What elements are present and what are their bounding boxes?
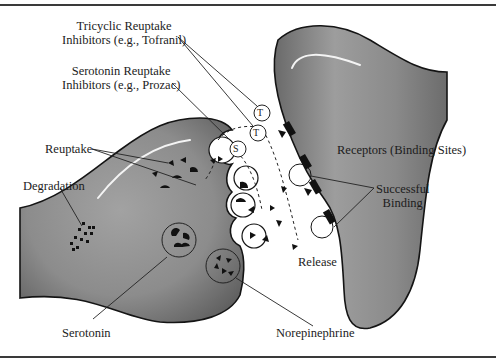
label-norepinephrine: Norepinephrine: [276, 326, 354, 340]
label-receptors: Receptors (Binding Sites): [337, 143, 466, 157]
label-ssri-line1: Serotonin Reuptake: [62, 64, 180, 78]
label-release: Release: [298, 255, 337, 269]
label-binding-line2: Binding: [376, 196, 429, 210]
marker-s-letter: S: [233, 142, 239, 156]
marker-t1-letter: T: [257, 106, 263, 120]
label-reuptake: Reuptake: [45, 142, 92, 156]
label-serotonin: Serotonin: [62, 326, 111, 340]
label-ssri-line2: Inhibitors (e.g., Prozac): [62, 78, 180, 92]
label-tricyclic-line2: Inhibitors (e.g., Tofranil): [62, 33, 186, 47]
label-binding-line1: Successful: [376, 182, 429, 196]
label-degradation: Degradation: [23, 179, 85, 193]
label-tricyclic-line1: Tricyclic Reuptake: [62, 19, 186, 33]
label-successful-binding: Successful Binding: [376, 182, 429, 210]
label-tricyclic: Tricyclic Reuptake Inhibitors (e.g., Tof…: [62, 19, 186, 47]
label-ssri: Serotonin Reuptake Inhibitors (e.g., Pro…: [62, 64, 180, 92]
postsynaptic-neuron: [274, 26, 447, 329]
marker-t2-letter: T: [253, 126, 259, 140]
